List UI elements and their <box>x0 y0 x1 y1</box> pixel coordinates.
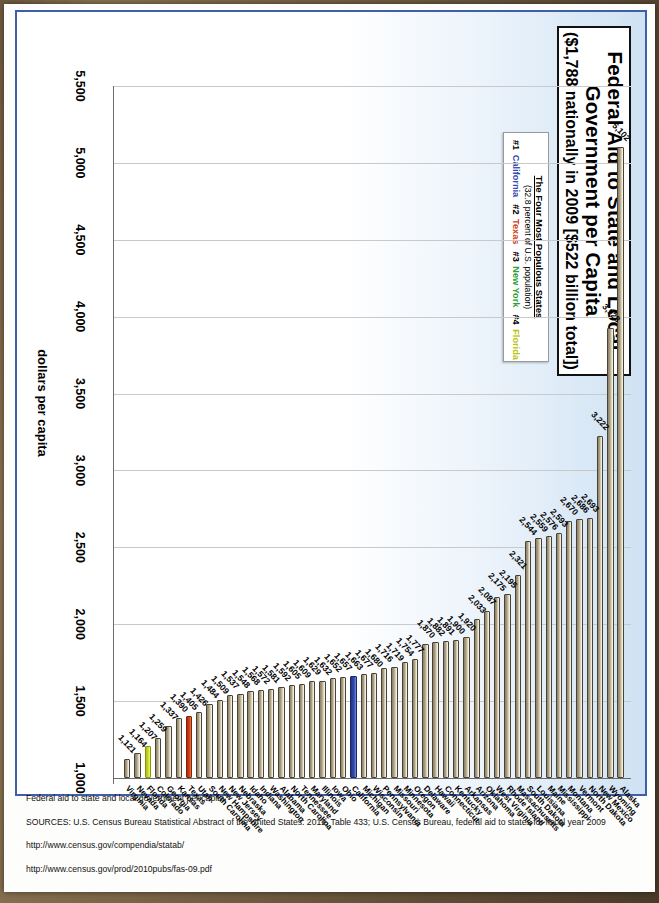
axis-tick: 2,500 <box>73 532 87 563</box>
bar-row <box>217 86 223 784</box>
bar-new-mexico <box>597 436 603 778</box>
plot-area: 5,102Alaska3,928Wyoming3,222New Mexico2,… <box>113 86 631 784</box>
bar-row <box>340 86 346 784</box>
bar-maryland <box>309 681 315 778</box>
bar-georgia <box>165 726 171 778</box>
footnotes: Federal aid to state and local governmen… <box>26 794 626 888</box>
bar-row <box>371 86 377 784</box>
bar-row <box>587 86 593 784</box>
bar-minnesota <box>402 662 408 778</box>
axis-tick: 3,500 <box>73 378 87 409</box>
bar-massachusetts <box>515 575 521 778</box>
bar-row <box>361 86 367 784</box>
bar-colorado <box>155 738 161 778</box>
rotated-chart-canvas: Federal Aid to State and Local Governmen… <box>4 4 655 892</box>
bar-florida <box>145 746 151 778</box>
bar-row <box>504 86 510 784</box>
bar-south-dakota <box>525 541 531 778</box>
bar-row <box>350 86 356 784</box>
bar-row <box>402 86 408 784</box>
bar-maine <box>546 536 552 778</box>
bar-south-carolina <box>206 704 212 778</box>
bar-mississippi <box>556 533 562 778</box>
bar-rhode-island <box>504 594 510 778</box>
bar-tennessee <box>299 684 305 778</box>
bar-kansas <box>176 718 182 778</box>
axis-tick: 2,000 <box>73 609 87 640</box>
bar-row <box>607 86 613 784</box>
bar-row <box>597 86 603 784</box>
bar-vermont <box>576 519 582 778</box>
bar-row <box>196 86 202 784</box>
axis-tick: 5,000 <box>73 147 87 178</box>
bar-row <box>227 86 233 784</box>
bar-row <box>206 86 212 784</box>
footnote-2[interactable]: http://www.census.gov/compendia/statab/ <box>26 841 626 850</box>
bar-row <box>145 86 151 784</box>
axis-tick: 3,000 <box>73 455 87 486</box>
bar-illinois <box>319 681 325 778</box>
bar-connecticut <box>443 641 449 778</box>
bar-alaska <box>617 147 623 778</box>
bar-row <box>422 86 428 784</box>
bar-virginia <box>124 759 130 778</box>
bar-north-dakota <box>587 518 593 778</box>
bar-row <box>453 86 459 784</box>
bar-row <box>463 86 469 784</box>
axis-title: dollars per capita <box>35 12 50 794</box>
bar-missouri <box>391 667 397 778</box>
value-axis: 5,5005,0004,5004,0003,5003,0002,5002,000… <box>73 86 111 784</box>
bar-arizona <box>474 619 480 778</box>
bar-row <box>165 86 171 784</box>
bar-row <box>494 86 500 784</box>
bar-louisiana <box>535 538 541 778</box>
bar-nevada <box>134 753 140 778</box>
bar-montana <box>566 521 572 778</box>
bar-row <box>515 86 521 784</box>
bar-nebraska <box>237 694 243 778</box>
bar-row <box>299 86 305 784</box>
axis-tick: 4,500 <box>73 224 87 255</box>
bar-row <box>432 86 438 784</box>
bar-west-virginia <box>494 597 500 778</box>
chart-frame: Federal Aid to State and Local Governmen… <box>15 10 647 796</box>
bar-ohio <box>340 677 346 778</box>
bar-row <box>124 86 130 784</box>
bar-new-hampshire <box>217 700 223 778</box>
bar-row <box>176 86 182 784</box>
bar-row <box>237 86 243 784</box>
bar-texas <box>186 716 192 778</box>
bar-washington <box>268 689 274 778</box>
bar-row <box>566 86 572 784</box>
scanned-page: Federal Aid to State and Local Governmen… <box>0 0 659 903</box>
bar-row <box>535 86 541 784</box>
axis-tick: 4,000 <box>73 301 87 332</box>
bar-new-jersey <box>227 695 233 778</box>
bar-idaho <box>247 691 253 778</box>
bar-oklahoma <box>484 611 490 778</box>
footnote-0: Federal aid to state and local governmen… <box>26 794 626 803</box>
bar-row <box>319 86 325 784</box>
bars-container: 5,102Alaska3,928Wyoming3,222New Mexico2,… <box>113 86 631 784</box>
bar-north-carolina <box>289 685 295 778</box>
bar-row <box>412 86 418 784</box>
bar-pennsylvania <box>381 668 387 778</box>
bar-indiana <box>258 690 264 778</box>
bar-arkansas <box>463 637 469 778</box>
bar-row <box>155 86 161 784</box>
bar-row <box>186 86 192 784</box>
bar-row <box>525 86 531 784</box>
bar-michigan <box>361 674 367 778</box>
axis-tick: 5,500 <box>73 70 87 101</box>
axis-tick: 1,000 <box>73 762 87 793</box>
axis-tick: 1,500 <box>73 685 87 716</box>
bar-wisconsin <box>371 673 377 778</box>
bar-iowa <box>330 678 336 778</box>
bar-oregon <box>412 659 418 778</box>
bar-row <box>330 86 336 784</box>
paper-sheet: Federal Aid to State and Local Governmen… <box>4 4 655 892</box>
bar-row <box>474 86 480 784</box>
bar-hawaii <box>432 642 438 778</box>
bar-row <box>443 86 449 784</box>
footnote-3[interactable]: http://www.census.gov/prod/2010pubs/fas-… <box>26 865 626 874</box>
